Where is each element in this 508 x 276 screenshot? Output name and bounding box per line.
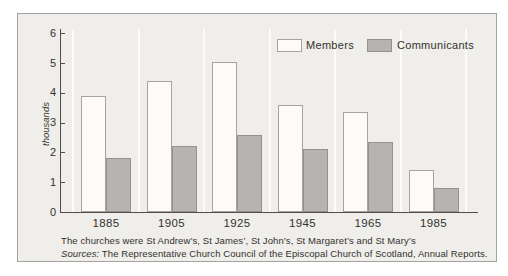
y-tick-label: 4 [30,86,56,99]
y-tick-label: 6 [30,27,56,40]
x-tick-label: 1905 [146,217,198,230]
y-tick-mark [60,33,65,34]
group-separator-line [334,29,336,212]
communicants-bar [434,188,459,212]
y-tick-label: 1 [30,176,56,189]
communicants-legend-swatch [367,39,392,52]
x-tick-label: 1925 [211,217,263,230]
members-bar [409,170,434,212]
y-tick-mark [60,152,65,153]
y-tick-mark [60,182,65,183]
members-bar [278,105,303,212]
x-axis-line [60,212,478,213]
chart-frame: 1885190519251945196519850123456 Members … [17,13,497,262]
y-axis-title: thousands [40,102,51,146]
y-tick-mark [60,212,65,213]
page: 1885190519251945196519850123456 Members … [0,0,508,276]
members-bar [212,62,237,212]
communicants-bar [106,158,131,212]
group-separator-line [400,29,402,212]
group-separator-line [269,29,271,212]
communicants-bar [237,135,262,212]
communicants-bar [303,149,328,212]
communicants-legend-label: Communicants [397,39,474,52]
group-separator-line [138,29,140,212]
x-tick-label: 1965 [342,217,394,230]
members-legend-label: Members [306,39,354,52]
y-axis-line [60,29,61,213]
group-separator-line [203,29,205,212]
members-bar [343,112,368,212]
sources-text: The Representative Church Council of the… [99,248,487,259]
x-tick-label: 1885 [80,217,132,230]
y-tick-mark [60,93,65,94]
caption-line-2: Sources: The Representative Church Counc… [61,248,488,261]
group-separator-line [465,29,467,212]
x-tick-label: 1985 [408,217,460,230]
members-bar [81,96,106,212]
members-legend-swatch [277,39,302,52]
sources-label: Sources: [61,248,99,259]
y-tick-label: 5 [30,57,56,70]
members-bar [147,81,172,212]
y-tick-label: 2 [30,146,56,159]
caption-line-1: The churches were St Andrew’s, St James’… [61,235,488,248]
y-tick-mark [60,123,65,124]
caption: The churches were St Andrew’s, St James’… [61,235,488,260]
communicants-bar [172,146,197,212]
y-tick-mark [60,63,65,64]
y-tick-label: 0 [30,206,56,219]
x-tick-label: 1945 [277,217,329,230]
group-separator-line [72,29,74,212]
communicants-bar [368,142,393,212]
